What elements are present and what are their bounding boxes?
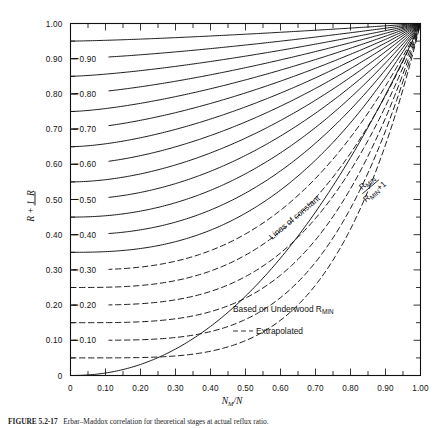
x-tick-label: 0.90 [377,384,394,393]
y-tick-label: 0 [58,372,63,381]
y-axis-tick-labels: 00.100.200.300.400.500.600.700.800.901.0… [46,20,63,381]
x-tick-label: 0.30 [167,384,184,393]
curve-label: 0.10 [80,336,97,345]
annotation-lines-of-constant: Lines of constant RMIN RMIN+1 [267,169,389,241]
x-tick-label: 0.20 [132,384,149,393]
curve-label: 0.30 [80,266,97,275]
annotation-constant-text: Lines of constant [267,193,322,242]
curve-label: 0.50 [80,196,97,205]
y-tick-label: 0.70 [46,125,63,134]
x-axis-title: NM/N [221,396,243,407]
figure-caption-text: FIGURE 5.2-17 Erbar–Maddox correlation f… [8,417,269,426]
y-axis-title: R R + 1 [26,190,36,223]
y-axis-title-numerator: R [26,190,36,197]
legend-item-solid-label: Based on Underwood RMIN [233,304,334,315]
legend-solid-sub: MIN [322,308,334,315]
curve-label: 0.60 [80,160,97,169]
annotation-ratio-fraction: RMIN RMIN+1 [353,169,389,204]
x-tick-label: 0.80 [342,384,359,393]
x-axis-tick-labels: 00.100.200.300.400.500.600.700.800.901.0… [68,384,429,393]
legend-solid-text: Based on Underwood R [233,304,322,314]
curve-label: 0.80 [80,90,97,99]
legend: Based on Underwood RMIN Extrapolated [233,304,334,336]
y-axis-title-denominator: R + 1 [26,200,36,223]
erbar-maddox-chart: 0.900.800.700.600.500.400.300.200.10 00.… [0,0,444,428]
curve-0p20 [71,24,421,306]
curve-labels: 0.900.800.700.600.500.400.300.200.10 [73,53,109,346]
curve-label: 0.70 [80,125,97,134]
x-tick-label: 0.70 [307,384,324,393]
figure-caption-prefix: FIGURE 5.2-17 [8,417,58,426]
y-tick-label: 0.90 [46,55,63,64]
y-tick-label: 0.40 [46,231,63,240]
curve-label: 0.90 [80,55,97,64]
figure-caption: FIGURE 5.2-17 Erbar–Maddox correlation f… [8,417,269,426]
figure-caption-body: Erbar–Maddox correlation for theoretical… [58,417,269,426]
curve-label: 0.40 [80,231,97,240]
x-tick-label: 0.40 [202,384,219,393]
figure-root: 0.900.800.700.600.500.400.300.200.10 00.… [0,0,444,428]
legend-item-dashed-label: Extrapolated [256,326,303,336]
y-tick-label: 0.10 [46,336,63,345]
curve-0p85 [71,24,421,77]
x-tick-label: 0.60 [272,384,289,393]
x-axis-title-text: NM/N [221,396,243,407]
y-tick-label: 0.20 [46,301,63,310]
curve-0p30 [71,24,421,270]
x-tick-label: 0.50 [237,384,254,393]
y-tick-label: 1.00 [46,20,63,29]
y-tick-label: 0.60 [46,160,63,169]
y-tick-label: 0.30 [46,266,63,275]
x-tick-label: 1.00 [412,384,429,393]
curve-label: 0.20 [80,301,97,310]
x-tick-label: 0.10 [97,384,114,393]
y-tick-label: 0.80 [46,90,63,99]
y-tick-label: 0.50 [46,196,63,205]
x-tick-label: 0 [68,384,73,393]
